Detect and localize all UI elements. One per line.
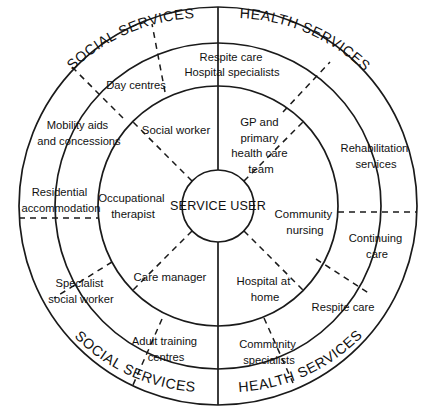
inner-segment-gp-primary-health-care-team: GP and primary health care team (231, 116, 291, 175)
inner-segment-community-nursing: Community nursing (275, 208, 336, 236)
outer-segment-mobility-aids-and-concessions: Mobility aids and concessions (37, 119, 121, 147)
inner-segment-occupational-therapist: Occupational therapist (98, 192, 168, 220)
outer-segment-residential-accommodation: Residential accommodation (22, 186, 101, 214)
outer-segment-specialist-social-worker: Specialist social worker (48, 277, 114, 305)
outer-segment-hospital-specialists: Hospital specialists (184, 66, 280, 78)
inner-segment-hospital-at-home: Hospital at home (237, 275, 294, 303)
outer-segment-rehabilitation-services: Rehabilitation services (341, 142, 412, 170)
inner-segment-social-worker: Social worker (142, 124, 211, 136)
outer-divider-daycentres-mobility (72, 67, 123, 118)
center-label: SERVICE USER (170, 199, 266, 213)
outer-segment-continuing-care: Continuing care (349, 232, 406, 260)
outer-segment-respite-care-social: Respite care (200, 51, 263, 63)
outer-segment-adult-training-centres: Adult training centres (132, 335, 200, 363)
outer-divider-continuing-respite (316, 259, 370, 294)
service-user-diagram: SOCIAL SERVICES HEALTH SERVICES SOCIAL S… (0, 0, 432, 414)
diagram-canvas: SOCIAL SERVICES HEALTH SERVICES SOCIAL S… (0, 0, 432, 414)
inner-segment-care-manager: Care manager (134, 271, 207, 283)
arc-heading-social-services-top: SOCIAL SERVICES (64, 5, 195, 73)
arc-heading-health-services-top: HEALTH SERVICES (239, 5, 373, 74)
outer-segment-day-centres: Day centres (106, 79, 166, 91)
outer-segment-respite-care-health: Respite care (312, 301, 375, 313)
